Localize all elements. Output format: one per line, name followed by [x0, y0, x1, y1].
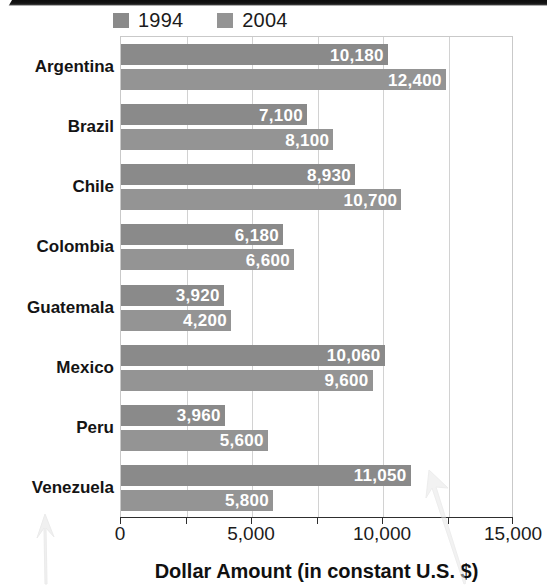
bar-row: 4,200	[121, 310, 512, 331]
bar-group: 11,0505,800	[121, 465, 512, 511]
bar-mexico-2004[interactable]: 9,600	[121, 370, 373, 391]
bar-row: 8,100	[121, 129, 512, 150]
x-axis-title: Dollar Amount (in constant U.S. $)	[120, 561, 513, 581]
legend-swatch-2004	[217, 13, 233, 28]
bar-value-label: 11,050	[354, 467, 407, 484]
bar-chile-1994[interactable]: 8,930	[121, 164, 355, 185]
x-axis-tick	[186, 517, 187, 524]
bar-row: 5,800	[121, 490, 512, 511]
category-label-colombia: Colombia	[0, 238, 114, 255]
category-label-guatemala: Guatemala	[0, 298, 114, 315]
bar-row: 10,700	[121, 189, 512, 210]
bar-venezuela-1994[interactable]: 11,050	[121, 465, 411, 486]
bar-value-label: 10,180	[330, 46, 384, 63]
bar-row: 12,400	[121, 69, 512, 90]
category-label-chile: Chile	[0, 178, 114, 195]
legend-label-1994: 1994	[138, 10, 183, 30]
bar-value-label: 7,100	[259, 106, 303, 123]
bar-value-label: 5,800	[225, 492, 269, 509]
bar-chile-2004[interactable]: 10,700	[121, 189, 401, 210]
bar-colombia-1994[interactable]: 6,180	[121, 224, 283, 245]
bar-peru-2004[interactable]: 5,600	[121, 430, 268, 451]
bar-row: 3,960	[121, 405, 512, 426]
bar-group: 10,18012,400	[121, 44, 512, 90]
legend-entry-2004: 2004	[217, 10, 287, 30]
bar-argentina-2004[interactable]: 12,400	[121, 69, 446, 90]
bar-row: 6,180	[121, 224, 512, 245]
x-tick-label: 0	[115, 524, 126, 543]
bar-group: 3,9204,200	[121, 285, 512, 331]
bar-group: 7,1008,100	[121, 104, 512, 150]
bar-peru-1994[interactable]: 3,960	[121, 405, 225, 426]
bar-value-label: 3,960	[177, 407, 221, 424]
bar-value-label: 10,060	[327, 347, 381, 364]
category-axis-labels: ArgentinaBrazilChileColombiaGuatemalaMex…	[0, 36, 114, 517]
x-tick-label: 15,000	[484, 524, 542, 543]
bar-row: 8,930	[121, 164, 512, 185]
bar-group: 3,9605,600	[121, 405, 512, 451]
x-tick-label: 5,000	[227, 524, 275, 543]
category-label-venezuela: Venezuela	[0, 478, 114, 495]
bar-row: 7,100	[121, 104, 512, 125]
bar-brazil-1994[interactable]: 7,100	[121, 104, 307, 125]
x-axis-tick-labels: 05,00010,00015,000	[0, 524, 547, 550]
bar-colombia-2004[interactable]: 6,600	[121, 249, 294, 270]
x-tick-label: 10,000	[353, 524, 411, 543]
x-axis-line	[120, 517, 513, 518]
bar-argentina-1994[interactable]: 10,180	[121, 44, 388, 65]
bar-brazil-2004[interactable]: 8,100	[121, 129, 333, 150]
legend-label-2004: 2004	[242, 10, 287, 30]
bar-venezuela-2004[interactable]: 5,800	[121, 490, 273, 511]
bar-guatemala-1994[interactable]: 3,920	[121, 285, 224, 306]
bar-guatemala-2004[interactable]: 4,200	[121, 310, 231, 331]
bar-value-label: 6,180	[235, 226, 279, 243]
category-label-brazil: Brazil	[0, 118, 114, 135]
bar-value-label: 12,400	[388, 71, 442, 88]
legend-swatch-1994	[113, 13, 129, 28]
bar-row: 9,600	[121, 370, 512, 391]
bar-value-label: 8,100	[285, 131, 329, 148]
x-axis-tick	[317, 517, 318, 524]
bar-value-label: 10,700	[344, 191, 398, 208]
category-label-argentina: Argentina	[0, 58, 114, 75]
bar-chart: 1994 2004 ArgentinaBrazilChileColombiaGu…	[0, 0, 547, 585]
bar-value-label: 4,200	[183, 312, 227, 329]
x-axis-tick	[448, 517, 449, 524]
bar-value-label: 5,600	[220, 432, 264, 449]
plot-area: 10,18012,4007,1008,1008,93010,7006,1806,…	[120, 36, 513, 517]
chart-legend: 1994 2004	[113, 8, 288, 32]
bar-value-label: 6,600	[246, 251, 290, 268]
bar-row: 3,920	[121, 285, 512, 306]
bar-row: 5,600	[121, 430, 512, 451]
category-label-mexico: Mexico	[0, 358, 114, 375]
bar-group: 10,0609,600	[121, 345, 512, 391]
legend-entry-1994: 1994	[113, 10, 183, 30]
bar-value-label: 9,600	[324, 372, 368, 389]
bar-mexico-1994[interactable]: 10,060	[121, 345, 385, 366]
bar-row: 11,050	[121, 465, 512, 486]
bar-value-label: 8,930	[307, 166, 351, 183]
bar-value-label: 3,920	[176, 287, 220, 304]
bar-row: 6,600	[121, 249, 512, 270]
bar-group: 6,1806,600	[121, 224, 512, 270]
bar-row: 10,180	[121, 44, 512, 65]
bar-row: 10,060	[121, 345, 512, 366]
bar-group: 8,93010,700	[121, 164, 512, 210]
category-label-peru: Peru	[0, 418, 114, 435]
